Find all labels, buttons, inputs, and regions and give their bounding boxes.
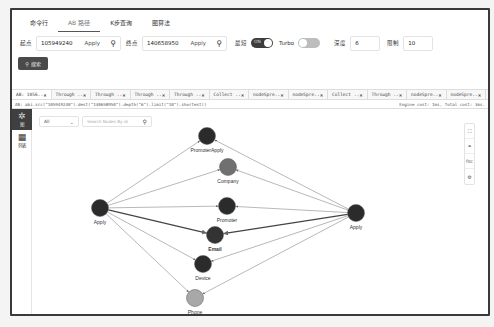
- graph-edge[interactable]: [108, 206, 218, 208]
- node-label: Device: [195, 275, 211, 281]
- graph-node-email[interactable]: Email: [207, 227, 224, 252]
- graph-node-company[interactable]: Company: [217, 159, 239, 184]
- graph-node-promoter-apply[interactable]: PromoterApply: [190, 128, 224, 153]
- link-icon[interactable]: ⚭: [465, 139, 474, 154]
- graph-node-device[interactable]: Device: [195, 256, 212, 281]
- node-label: Phone: [188, 309, 203, 315]
- app-window: 命令行 AB 路径 K步查询 图算法 起点 105949240 Apply ⚲ …: [10, 8, 490, 316]
- graph-node-phone[interactable]: Phone: [187, 290, 204, 315]
- node-label: PromoterApply: [190, 147, 224, 153]
- graph-edge[interactable]: [211, 216, 348, 262]
- graph-toolbar: ⛶ ⚭ fsc ⚙: [464, 123, 475, 185]
- node-label: Email: [208, 246, 222, 252]
- graph-edge[interactable]: [215, 140, 349, 209]
- graph-edge[interactable]: [107, 212, 195, 260]
- fit-screen-icon[interactable]: fsc: [465, 154, 474, 169]
- graph-node-promoter[interactable]: Promoter: [217, 198, 238, 223]
- graph-node-apply-right[interactable]: Apply: [348, 205, 365, 230]
- node-label: Company: [217, 178, 239, 184]
- node-label: Apply: [350, 224, 363, 230]
- graph-canvas[interactable]: ApplyApplyPromoterApplyCompanyPromoterEm…: [12, 10, 488, 314]
- graph-node-apply-left[interactable]: Apply: [92, 200, 109, 225]
- graph-edge[interactable]: [108, 170, 220, 206]
- settings-icon[interactable]: ⚙: [465, 169, 474, 184]
- node-label: Promoter: [217, 217, 238, 223]
- graph-edge[interactable]: [223, 214, 347, 233]
- graph-edge[interactable]: [235, 206, 347, 212]
- graph-edge[interactable]: [203, 217, 349, 294]
- graph-edge[interactable]: [107, 141, 200, 204]
- graph-edge[interactable]: [236, 170, 348, 210]
- node-label: Apply: [94, 219, 107, 225]
- fullscreen-icon[interactable]: ⛶: [465, 124, 474, 139]
